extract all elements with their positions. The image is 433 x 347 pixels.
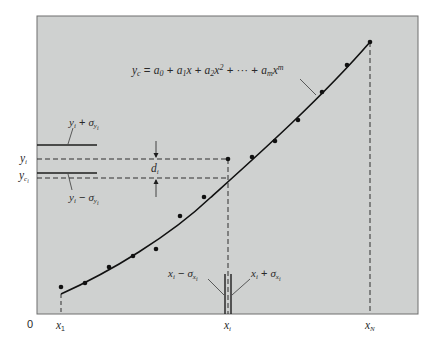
- data-point: [83, 281, 88, 286]
- data-point: [345, 63, 350, 68]
- data-point: [296, 118, 301, 123]
- plot-panel: [37, 16, 418, 314]
- origin-label: 0: [27, 318, 33, 330]
- data-point: [154, 247, 159, 252]
- yi-axis-label: yi: [19, 152, 27, 166]
- data-point: [250, 155, 255, 160]
- data-point: [273, 139, 278, 144]
- data-point: [202, 195, 207, 200]
- data-point: [59, 285, 64, 290]
- least-squares-diagram: yc = a0 + a1x + a2x2 + ··· + amxm yi + σ…: [0, 0, 433, 347]
- data-point-xN: [368, 40, 373, 45]
- data-point: [178, 214, 183, 219]
- xN-axis-label: xN: [364, 319, 375, 333]
- formula-label: yc = a0 + a1x + a2x2 + ··· + amxm: [131, 63, 284, 78]
- data-point: [320, 90, 325, 95]
- data-point-xi: [226, 157, 231, 162]
- x1-axis-label: x1: [55, 319, 65, 332]
- data-point: [107, 265, 112, 270]
- yci-axis-label: yci: [18, 169, 29, 184]
- data-point: [131, 254, 136, 259]
- xi-axis-label: xi: [223, 319, 231, 333]
